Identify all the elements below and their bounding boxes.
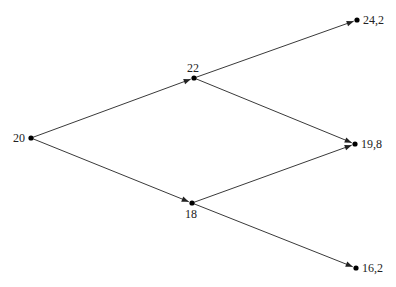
node-dot (191, 75, 196, 80)
node-dot (353, 265, 358, 270)
edges-layer (31, 21, 354, 267)
node-dot (352, 141, 357, 146)
edge-up-to-ud (194, 78, 352, 143)
node-dot (354, 17, 359, 22)
edge-up-to-uu (194, 21, 354, 78)
node-label: 16,2 (362, 261, 383, 275)
edge-root-to-down (31, 138, 189, 202)
node-label: 24,2 (363, 13, 384, 27)
node-label: 20 (13, 131, 25, 145)
nodes-layer: 20221824,219,816,2 (13, 13, 384, 275)
node-dot (189, 200, 194, 205)
node-label: 19,8 (361, 137, 382, 151)
node-label: 22 (187, 61, 199, 75)
node-dd: 16,2 (353, 261, 383, 275)
node-dot (28, 135, 33, 140)
node-label: 18 (185, 207, 197, 221)
node-root: 20 (13, 131, 34, 145)
node-ud: 19,8 (352, 137, 382, 151)
node-up: 22 (187, 61, 199, 81)
edge-down-to-dd (192, 203, 353, 267)
node-down: 18 (185, 200, 197, 221)
binomial-tree-diagram: 20221824,219,816,2 (0, 0, 396, 287)
node-uu: 24,2 (354, 13, 384, 27)
edge-root-to-up (31, 79, 191, 138)
edge-down-to-ud (192, 145, 352, 203)
